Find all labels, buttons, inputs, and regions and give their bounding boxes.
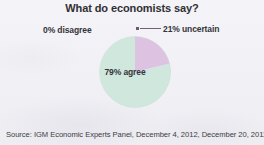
pie-chart-figure: What do economists say? 0% disagree 21% … bbox=[0, 0, 264, 145]
page-title: What do economists say? bbox=[0, 2, 264, 14]
slice-label-disagree: 0% disagree bbox=[43, 25, 92, 35]
leader-dot-marker bbox=[136, 27, 139, 30]
source-note: Source: IGM Economic Experts Panel, Dece… bbox=[6, 130, 264, 139]
slice-label-uncertain: 21% uncertain bbox=[163, 24, 219, 34]
slice-label-agree: 79% agree bbox=[100, 67, 150, 77]
leader-line bbox=[140, 28, 161, 29]
